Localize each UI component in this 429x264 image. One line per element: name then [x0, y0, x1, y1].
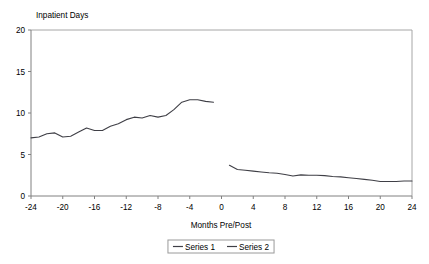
y-tick-label: 5: [20, 151, 25, 160]
x-tick-label: 24: [407, 203, 417, 212]
chart-container: Inpatient Days 05101520 -24-20-16-12-8-4…: [0, 0, 429, 264]
y-tick-label: 15: [16, 68, 26, 77]
x-tick-label: -24: [25, 203, 37, 212]
y-tick-label: 0: [20, 192, 25, 201]
x-tick-label: -12: [120, 203, 132, 212]
legend-label-2[interactable]: Series 2: [239, 243, 269, 252]
x-tick-label: 16: [344, 203, 354, 212]
y-tick-label: 20: [16, 26, 26, 35]
x-tick-label: 12: [312, 203, 322, 212]
x-tick-label: -8: [154, 203, 162, 212]
legend-label-1[interactable]: Series 1: [185, 243, 215, 252]
y-axis-title: Inpatient Days: [36, 11, 88, 20]
x-tick-label: -4: [186, 203, 194, 212]
x-tick-label: 0: [219, 203, 224, 212]
chart-legend: Series 1Series 2: [168, 240, 274, 253]
x-tick-label: 4: [251, 203, 256, 212]
inpatient-days-line-chart: Inpatient Days 05101520 -24-20-16-12-8-4…: [0, 0, 429, 264]
x-tick-label: 8: [283, 203, 288, 212]
x-tick-label: -16: [89, 203, 101, 212]
y-tick-label: 10: [16, 109, 26, 118]
x-tick-label: 20: [376, 203, 386, 212]
x-axis-title: Months Pre/Post: [191, 221, 252, 230]
x-tick-label: -20: [57, 203, 69, 212]
